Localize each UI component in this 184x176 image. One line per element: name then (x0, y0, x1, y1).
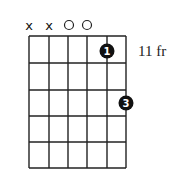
open-string-marker (65, 21, 74, 30)
fret-position-label: 11 fr (138, 43, 166, 59)
finger-dot: 1 (100, 44, 115, 59)
finger-number: 1 (104, 46, 111, 57)
muted-string-marker: x (25, 18, 33, 33)
muted-string-marker: x (45, 18, 53, 33)
string-markers: x x (25, 18, 91, 33)
finger-number: 3 (123, 98, 130, 109)
chord-diagram: x x 1 3 11 fr (0, 0, 184, 176)
finger-dot: 3 (119, 96, 134, 111)
open-string-marker (83, 21, 92, 30)
